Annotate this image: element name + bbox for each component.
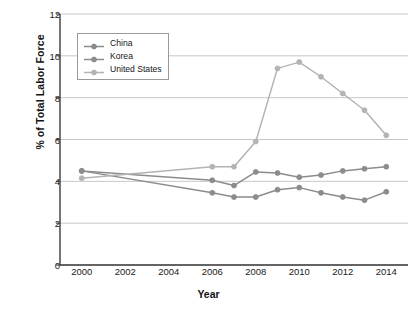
data-point [79, 176, 84, 181]
x-tick-label: 2014 [363, 266, 409, 277]
data-point [253, 169, 258, 174]
x-tick-label: 2002 [102, 266, 148, 277]
legend-marker-icon [83, 38, 105, 49]
data-point [297, 60, 302, 65]
x-tick-label: 2012 [320, 266, 366, 277]
data-point [362, 108, 367, 113]
legend-item[interactable]: United States [83, 63, 162, 76]
data-point [319, 74, 324, 79]
data-point [319, 173, 324, 178]
x-tick-label: 2006 [189, 266, 235, 277]
data-point [232, 164, 237, 169]
data-point [210, 190, 215, 195]
legend-label: United States [110, 64, 162, 75]
x-axis-tick-labels: 20002002200420062008201020122014 [0, 266, 417, 282]
x-tick-label: 2004 [146, 266, 192, 277]
data-point [297, 175, 302, 180]
data-point [253, 139, 258, 144]
legend-label: China [110, 38, 132, 49]
x-tick-label: 2000 [59, 266, 105, 277]
data-point [384, 164, 389, 169]
data-point [362, 198, 367, 203]
data-point [232, 195, 237, 200]
x-axis-title: Year [0, 288, 417, 300]
data-point [297, 185, 302, 190]
data-point [210, 178, 215, 183]
line-chart: % of Total Labor Force 024681012 2000200… [0, 0, 417, 312]
x-tick-label: 2010 [276, 266, 322, 277]
data-point [362, 166, 367, 171]
data-point [79, 168, 84, 173]
legend-item[interactable]: China [83, 37, 162, 50]
legend-marker-icon [83, 51, 105, 62]
x-tick-label: 2008 [233, 266, 279, 277]
legend: ChinaKoreaUnited States [77, 33, 169, 80]
legend-item[interactable]: Korea [83, 50, 162, 63]
data-point [210, 164, 215, 169]
data-point [340, 91, 345, 96]
data-point [319, 190, 324, 195]
data-point [340, 195, 345, 200]
data-point [275, 170, 280, 175]
legend-marker-icon [83, 64, 105, 75]
data-point [275, 66, 280, 71]
data-point [253, 195, 258, 200]
data-point [384, 189, 389, 194]
data-point [275, 187, 280, 192]
legend-label: Korea [110, 51, 133, 62]
data-point [384, 133, 389, 138]
data-point [232, 183, 237, 188]
data-point [340, 168, 345, 173]
